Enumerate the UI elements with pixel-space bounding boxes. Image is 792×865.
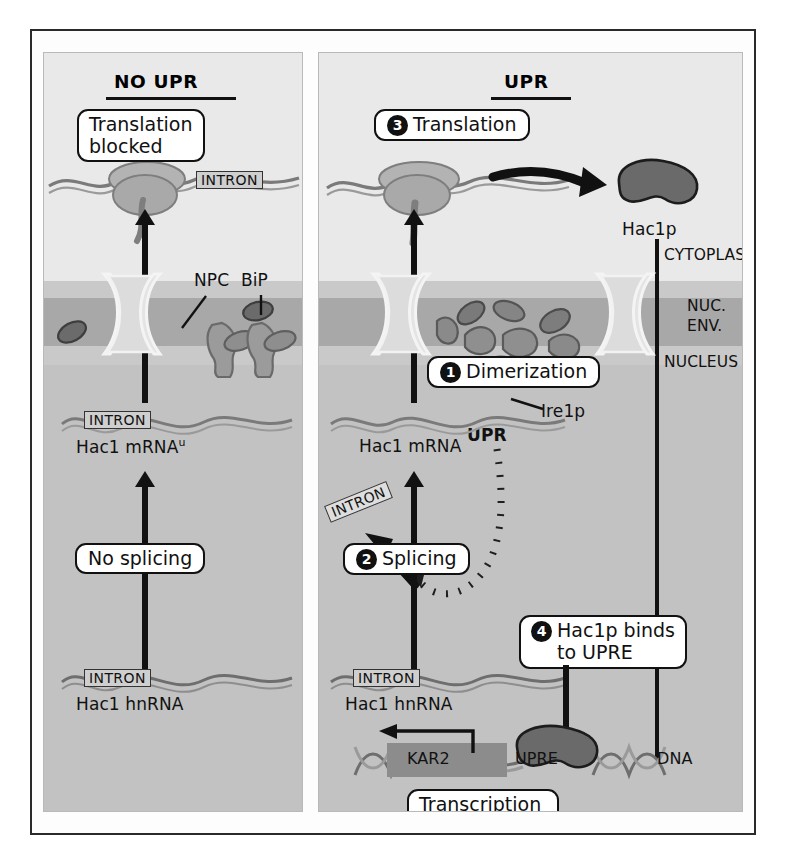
callout-translation: 3Translation bbox=[374, 109, 530, 141]
panel-upr: UPR 3Translation Hac1p CYTOPLASM NUC. bbox=[318, 52, 743, 812]
callout-hac1p-binds-line1: Hac1p binds bbox=[557, 619, 675, 641]
label-dna: DNA bbox=[657, 749, 693, 768]
figure-root: NO UPR INTRON Translation blocked NPC bbox=[0, 0, 792, 865]
callout-translation-text: Translation bbox=[413, 113, 517, 135]
bip-free-left bbox=[52, 315, 92, 349]
callout-translation-blocked: Translation blocked bbox=[77, 109, 205, 162]
callout-splicing: 2Splicing bbox=[343, 543, 470, 575]
callout-translation-step: 3 bbox=[387, 115, 408, 136]
hac1p-protein bbox=[599, 153, 719, 223]
label-mrna-superscript: u bbox=[178, 436, 185, 449]
callout-dimerization-step: 1 bbox=[440, 362, 461, 383]
callout-splicing-step: 2 bbox=[356, 549, 377, 570]
label-hac1-mrna-right: Hac1 mRNA bbox=[359, 436, 461, 456]
intron-box-mrna-left: INTRON bbox=[84, 411, 151, 429]
label-bip: BiP bbox=[241, 270, 268, 290]
callout-hac1p-binds-step: 4 bbox=[531, 621, 552, 642]
callout-dimerization-text: Dimerization bbox=[466, 360, 587, 382]
label-upre: UPRE bbox=[515, 749, 558, 768]
callout-hac1p-binds-line2: to UPRE bbox=[557, 641, 633, 663]
panel-title-rule-left bbox=[106, 97, 236, 100]
bip-leader-line bbox=[249, 293, 279, 319]
panel-no-upr: NO UPR INTRON Translation blocked NPC bbox=[43, 52, 303, 812]
callout-translation-blocked-line1: Translation bbox=[89, 113, 193, 135]
callout-splicing-text: Splicing bbox=[382, 547, 457, 569]
label-hac1-hnrna-left: Hac1 hnRNA bbox=[76, 694, 183, 714]
transcription-start-arrow bbox=[367, 723, 497, 763]
callout-hac1p-binds: 4Hac1p binds to UPRE bbox=[519, 615, 687, 669]
no-splicing-arrow bbox=[142, 485, 148, 671]
callout-dimerization: 1Dimerization bbox=[427, 356, 600, 388]
callout-transcription-line1: Transcription bbox=[419, 793, 541, 812]
callout-translation-blocked-line2: blocked bbox=[89, 135, 163, 157]
intron-box-hnrna-left: INTRON bbox=[84, 669, 151, 687]
callout-no-splicing: No splicing bbox=[75, 543, 205, 574]
label-cytoplasm: CYTOPLASM bbox=[664, 246, 743, 264]
panel-title-right: UPR bbox=[504, 71, 549, 92]
label-npc: NPC bbox=[194, 270, 229, 290]
panel-title-rule-right bbox=[491, 97, 571, 100]
hac1p-production-arrow bbox=[487, 161, 617, 211]
ribosome-right bbox=[367, 145, 487, 235]
intron-box-hnrna-right: INTRON bbox=[353, 669, 420, 687]
callout-transcription: Transcription of KAR2 gene bbox=[407, 789, 559, 812]
panel-title-left: NO UPR bbox=[114, 71, 198, 92]
intron-box-ribosome-left: INTRON bbox=[196, 171, 263, 189]
label-hac1-hnrna-right: Hac1 hnRNA bbox=[345, 694, 452, 714]
label-hac1p: Hac1p bbox=[622, 219, 677, 239]
label-hac1-mrna-left: Hac1 mRNAu bbox=[76, 436, 185, 457]
